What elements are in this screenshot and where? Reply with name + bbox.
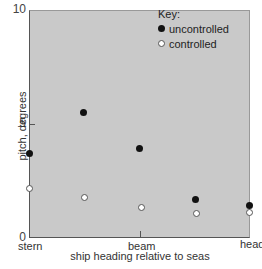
legend: Key: uncontrolled controlled [158, 6, 229, 51]
y-tick-mark-5 [29, 124, 35, 125]
point-controlled-stern [26, 185, 33, 192]
point-controlled-head [246, 209, 253, 216]
x-axis-label: ship heading relative to seas [40, 250, 240, 262]
x-tick-mark-beam [140, 231, 141, 238]
point-uncontrolled-4 [192, 196, 199, 203]
point-uncontrolled-beam [136, 145, 143, 152]
point-controlled-4 [193, 210, 200, 217]
filled-circle-icon [158, 25, 165, 32]
legend-title: Key: [158, 6, 229, 21]
y-tick-10: 10 [6, 2, 26, 16]
open-circle-icon [158, 40, 165, 47]
point-uncontrolled-2 [80, 109, 87, 116]
x-tick-stern: stern [18, 240, 42, 252]
point-uncontrolled-stern [26, 150, 33, 157]
point-uncontrolled-head [246, 202, 253, 209]
point-controlled-beam [138, 204, 145, 211]
legend-item-uncontrolled: uncontrolled [158, 21, 229, 36]
x-tick-head: head [240, 238, 262, 250]
point-controlled-2 [81, 194, 88, 201]
legend-item-controlled: controlled [158, 36, 229, 51]
